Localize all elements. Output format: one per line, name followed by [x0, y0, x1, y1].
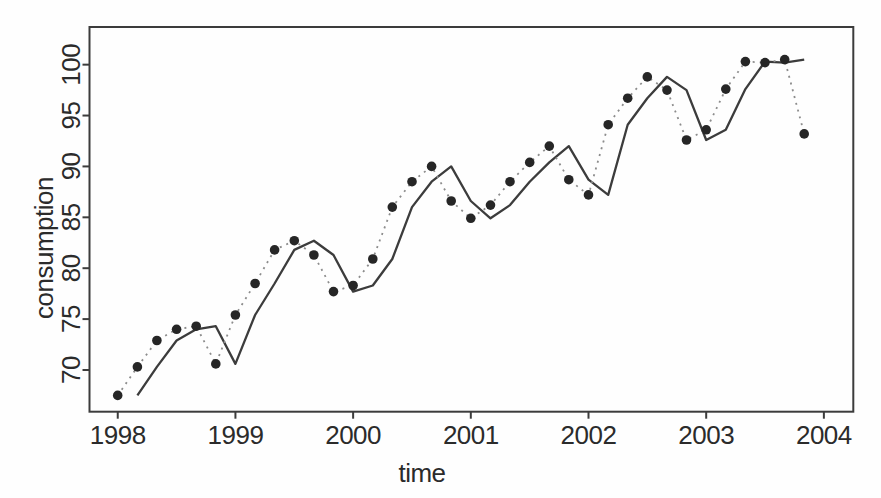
data-point: [290, 236, 300, 246]
data-point: [211, 359, 221, 369]
data-point: [643, 72, 653, 82]
y-tick-label: 100: [56, 44, 86, 86]
y-tick-label: 95: [56, 102, 86, 130]
data-point: [799, 129, 809, 139]
data-point: [270, 245, 280, 255]
data-point: [466, 214, 476, 224]
data-point: [682, 135, 692, 145]
data-point: [348, 281, 358, 291]
y-tick-label: 80: [56, 254, 86, 282]
y-tick-label: 90: [56, 152, 86, 180]
data-point: [505, 177, 515, 187]
data-point: [721, 84, 731, 94]
data-point: [446, 196, 456, 206]
data-point: [741, 57, 751, 67]
data-point: [113, 391, 123, 401]
data-point: [368, 254, 378, 264]
data-point: [172, 325, 182, 335]
y-tick-label: 75: [56, 305, 86, 333]
data-point: [760, 58, 770, 68]
series-dotted-line: [118, 60, 805, 396]
data-point: [701, 125, 711, 135]
data-point: [525, 158, 535, 168]
x-tick-label: 2001: [443, 420, 499, 450]
plot-canvas: 1998199920002001200220032004707580859095…: [0, 0, 881, 498]
data-point: [623, 93, 633, 103]
data-point: [388, 202, 398, 212]
data-point: [780, 55, 790, 65]
chart-figure: 1998199920002001200220032004707580859095…: [0, 0, 881, 498]
data-point: [329, 287, 339, 297]
x-tick-label: 1998: [90, 420, 146, 450]
data-point: [564, 175, 574, 185]
data-point: [133, 362, 143, 372]
data-point: [427, 162, 437, 172]
data-point: [250, 279, 260, 289]
x-axis-title: time: [398, 458, 445, 489]
x-tick-label: 2002: [561, 420, 617, 450]
y-tick-label: 70: [56, 356, 86, 384]
x-tick-label: 2004: [796, 420, 852, 450]
x-tick-label: 2003: [678, 420, 734, 450]
data-point: [152, 336, 162, 346]
x-tick-label: 2000: [325, 420, 381, 450]
data-point: [407, 177, 417, 187]
data-point: [191, 321, 201, 331]
y-axis-title: consumption: [29, 177, 60, 319]
data-point: [486, 200, 496, 210]
data-point: [309, 250, 319, 260]
data-point: [662, 85, 672, 95]
data-point: [603, 120, 613, 130]
data-point: [584, 190, 594, 200]
y-tick-label: 85: [56, 203, 86, 231]
data-point: [545, 141, 555, 151]
data-point: [231, 310, 241, 320]
series-solid-line: [137, 60, 804, 396]
x-tick-label: 1999: [208, 420, 264, 450]
